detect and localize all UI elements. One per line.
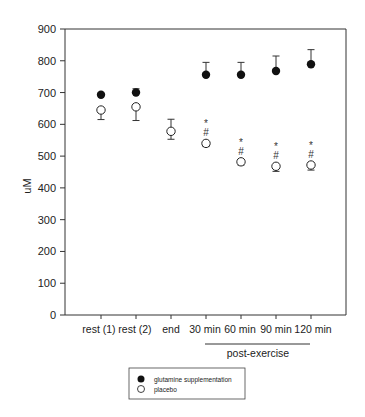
legend-label-placebo: placebo: [154, 386, 177, 394]
placebo-data-point: [237, 158, 245, 166]
y-tick-label: 800: [38, 55, 56, 67]
y-tick-label: 300: [38, 214, 56, 226]
y-tick-label: 900: [38, 23, 56, 35]
placebo-data-point: [307, 161, 315, 169]
x-axis: rest (1)rest (2)end30 min60 min90 min120…: [82, 315, 331, 335]
y-tick-label: 200: [38, 245, 56, 257]
chart: 0100200300400500600700800900 rest (1)res…: [0, 0, 365, 417]
data-series: #*#*#*#*: [97, 50, 315, 172]
legend-label-glutamine: glutamine supplementation: [154, 376, 232, 384]
placebo-data-point: [132, 103, 140, 111]
significance-star: *: [274, 141, 278, 152]
glutamine-data-point: [202, 71, 210, 79]
placebo-data-point: [202, 139, 210, 147]
x-tick-label: 60 min: [224, 323, 256, 335]
y-tick-label: 400: [38, 182, 56, 194]
placebo-data-point: [167, 127, 175, 135]
y-tick-label: 100: [38, 277, 56, 289]
glutamine-data-point: [307, 60, 315, 68]
y-tick-label: 0: [50, 309, 56, 321]
glutamine-data-point: [237, 71, 245, 79]
placebo-data-point: [97, 106, 105, 114]
y-tick-label: 500: [38, 150, 56, 162]
glutamine-data-point: [132, 88, 140, 96]
post-exercise-label: post-exercise: [227, 347, 290, 359]
legend: glutamine supplementation placebo: [129, 368, 245, 399]
legend-filled-circle-icon: [138, 376, 145, 383]
y-tick-label: 700: [38, 87, 56, 99]
x-tick-label: 30 min: [189, 323, 221, 335]
x-tick-label: 120 min: [294, 323, 332, 335]
x-tick-label: rest (2): [118, 323, 151, 335]
x-tick-label: end: [162, 323, 180, 335]
y-axis-label: uM: [21, 178, 33, 193]
legend-box: [129, 368, 245, 399]
significance-star: *: [204, 118, 208, 129]
glutamine-data-point: [272, 67, 280, 75]
legend-open-circle-icon: [138, 386, 145, 393]
placebo-data-point: [272, 162, 280, 170]
glutamine-data-point: [97, 91, 105, 99]
x-tick-label: rest (1): [82, 323, 115, 335]
x-tick-label: 90 min: [260, 323, 292, 335]
y-tick-label: 600: [38, 118, 56, 130]
y-axis: 0100200300400500600700800900: [38, 23, 65, 321]
significance-star: *: [239, 137, 243, 148]
significance-star: *: [309, 140, 313, 151]
